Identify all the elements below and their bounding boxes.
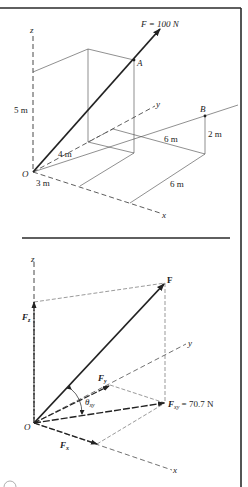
angle-arc-icon <box>71 389 82 414</box>
Fx-label: Fx <box>59 440 69 451</box>
y-axis-label-top: y <box>155 99 160 109</box>
x-axis-label-bottom: x <box>172 465 177 475</box>
construction-box <box>33 49 238 203</box>
y-axis-label-bottom: y <box>187 338 192 348</box>
dim-5m: 5 m <box>14 105 28 115</box>
point-B-marker <box>204 115 207 118</box>
dim-2m: 2 m <box>208 129 222 139</box>
figure-canvas: z y x F = 100 N A B O 5 m 4 <box>0 0 248 487</box>
dim-4m: 4 m <box>58 149 72 159</box>
top-panel: z y x F = 100 N A B O 5 m 4 <box>14 19 238 220</box>
force-label: F = 100 N <box>140 19 180 29</box>
z-axis-label-bottom: z <box>30 254 35 264</box>
dim-6m-y: 6 m <box>164 134 178 144</box>
diagram-svg: z y x F = 100 N A B O 5 m 4 <box>0 0 248 487</box>
Fy-label: Fy <box>97 373 107 384</box>
x-axis-label-top: x <box>161 210 166 220</box>
force-vector-F <box>33 29 160 172</box>
dim-3m: 3 m <box>36 178 50 188</box>
origin-label-bottom: O <box>24 422 31 432</box>
point-A-label: A <box>136 58 143 68</box>
vector-F <box>34 284 164 423</box>
origin-label-top: O <box>22 169 29 179</box>
point-A-marker <box>133 59 136 62</box>
theta-xy-label: θxy <box>85 397 95 408</box>
figure-frame <box>0 8 241 487</box>
Fxy-label: Fxy = 70.7 N <box>167 399 214 410</box>
z-axis-label-top: z <box>29 25 34 35</box>
dim-6m-x: 6 m <box>170 179 184 189</box>
x-axis-top <box>33 172 160 213</box>
F-label: F <box>167 275 173 285</box>
point-B-label: B <box>200 104 206 114</box>
Fz-label: Fz <box>21 312 31 323</box>
bottom-panel: z y x Fz F Fy Fxy = 70.7 N Fx θxy <box>21 254 214 475</box>
partial-circle-icon <box>4 481 16 487</box>
